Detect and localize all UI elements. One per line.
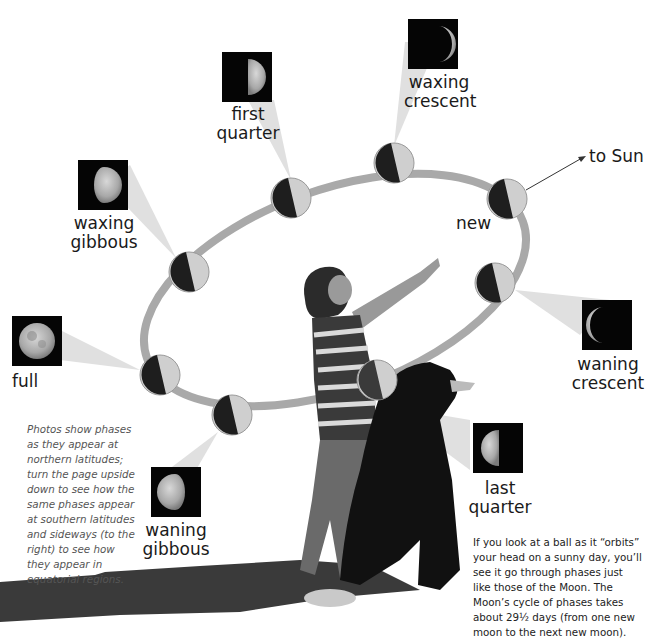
- sun-arrow: [526, 156, 586, 190]
- label-line: quarter: [213, 124, 283, 143]
- label-line: full: [12, 372, 42, 391]
- label-line: waxing: [68, 214, 140, 233]
- label-line: waxing: [404, 73, 474, 92]
- label-line: first: [213, 105, 283, 124]
- ball-new: [487, 179, 527, 219]
- moon-phases-diagram: waxing crescent first quarter waxing gib…: [0, 0, 646, 640]
- photo-waning-gibbous: [151, 467, 201, 517]
- label-last-quarter: last quarter: [468, 479, 532, 517]
- ball-full: [140, 355, 180, 395]
- ball-orbit-note: If you look at a ball as it “orbits” you…: [473, 535, 643, 640]
- label-line: last: [468, 479, 532, 498]
- label-waning-gibbous: waning gibbous: [138, 521, 214, 559]
- photo-waxing-crescent: [408, 19, 458, 69]
- photo-waxing-gibbous: [78, 160, 128, 210]
- photo-waning-crescent: [582, 300, 632, 350]
- label-line: crescent: [404, 92, 474, 111]
- ball-first-quarter: [271, 178, 311, 218]
- label-waxing-gibbous: waxing gibbous: [68, 214, 140, 252]
- photos-caption: Photos show phases as they appear at nor…: [27, 422, 139, 587]
- label-line: waning: [570, 355, 646, 374]
- label-waxing-crescent: waxing crescent: [404, 73, 474, 111]
- label-first-quarter: first quarter: [213, 105, 283, 143]
- ball-waning-crescent: [475, 263, 515, 303]
- photo-full: [12, 316, 62, 366]
- label-new: new: [456, 214, 491, 233]
- label-line: gibbous: [68, 233, 140, 252]
- ball-last-quarter: [357, 360, 397, 400]
- photo-last-quarter: [473, 423, 523, 473]
- label-line: gibbous: [138, 540, 214, 559]
- photo-first-quarter: [222, 52, 272, 102]
- label-to-sun: to Sun: [589, 147, 644, 166]
- label-line: waning: [138, 521, 214, 540]
- ball-waxing-crescent: [374, 143, 414, 183]
- label-line: crescent: [570, 374, 646, 393]
- ball-waning-gibbous: [212, 395, 252, 435]
- ball-waxing-gibbous: [169, 252, 209, 292]
- label-full: full: [12, 372, 42, 391]
- label-waning-crescent: waning crescent: [570, 355, 646, 393]
- label-line: quarter: [468, 498, 532, 517]
